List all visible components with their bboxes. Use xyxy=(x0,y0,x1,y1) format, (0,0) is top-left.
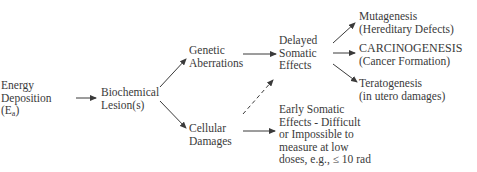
delayed-line-1: Delayed xyxy=(279,34,317,47)
arrow-cellular-to-delayed-dashed xyxy=(243,80,273,114)
early-line-1: Early Somatic xyxy=(279,103,371,116)
early-line-4: measure at low xyxy=(279,141,371,154)
node-teratogenesis: Teratogenesis (in utero damages) xyxy=(359,77,445,102)
early-line-3: or Impossible to xyxy=(279,128,371,141)
energy-line-1: Energy xyxy=(1,79,51,92)
energy-line-3: (Ea) xyxy=(1,104,51,121)
mutagenesis-line-1: Mutagenesis xyxy=(359,10,454,23)
arrow-delayed-to-mutagenesis xyxy=(333,23,355,43)
mutagenesis-line-2: (Hereditary Defects) xyxy=(359,23,454,36)
biochemical-line-1: Biochemical xyxy=(101,86,159,99)
cellular-line-2: Damages xyxy=(189,135,232,148)
early-line-2: Effects - Difficult xyxy=(279,116,371,129)
arrow-biochemical-to-cellular xyxy=(160,101,186,128)
delayed-line-2: Somatic xyxy=(279,47,317,60)
node-genetic-aberrations: Genetic Aberrations xyxy=(189,44,243,69)
node-energy-deposition: Energy Deposition (Ea) xyxy=(1,79,51,121)
cellular-line-1: Cellular xyxy=(189,122,232,135)
early-line-5: doses, e.g., ≤ 10 rad xyxy=(279,153,371,166)
teratogenesis-line-1: Teratogenesis xyxy=(359,77,445,90)
delayed-line-3: Effects xyxy=(279,59,317,72)
node-biochemical-lesions: Biochemical Lesion(s) xyxy=(101,86,159,111)
energy-line-2: Deposition xyxy=(1,92,51,105)
arrow-delayed-to-teratogenesis xyxy=(333,64,357,82)
carcinogenesis-line-2: (Cancer Formation) xyxy=(359,55,462,68)
node-cellular-damages: Cellular Damages xyxy=(189,122,232,147)
biochemical-line-2: Lesion(s) xyxy=(101,99,159,112)
node-delayed-somatic-effects: Delayed Somatic Effects xyxy=(279,34,317,72)
node-mutagenesis: Mutagenesis (Hereditary Defects) xyxy=(359,10,454,35)
genetic-line-2: Aberrations xyxy=(189,57,243,70)
genetic-line-1: Genetic xyxy=(189,44,243,57)
arrow-biochemical-to-genetic xyxy=(160,59,186,87)
carcinogenesis-line-1: CARCINOGENESIS xyxy=(359,42,462,55)
node-carcinogenesis: CARCINOGENESIS (Cancer Formation) xyxy=(359,42,462,67)
node-early-somatic-effects: Early Somatic Effects - Difficult or Imp… xyxy=(279,103,371,166)
teratogenesis-line-2: (in utero damages) xyxy=(359,90,445,103)
